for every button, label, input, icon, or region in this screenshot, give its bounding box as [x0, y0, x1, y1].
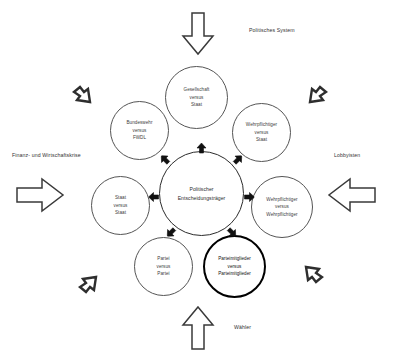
circle-label: Gesellschaft versus Staat [184, 86, 210, 108]
circle-label: Parteimitglieder versus Parteimitglieder [218, 255, 251, 277]
arrow-left-icon-right [326, 176, 376, 214]
arrow-down-left-icon [306, 85, 328, 107]
arrow-up-right-icon [78, 272, 100, 294]
circle-label: Bundeswehr versus FWDL [126, 119, 152, 141]
inner-arrow-up-icon [196, 140, 207, 158]
circle-label: Wehrpflichtiger versus Staat [246, 121, 277, 143]
arrow-up-left-icon [302, 262, 324, 284]
circle-label: Wehrpflichtiger versus Wehrpflichtiger [266, 196, 297, 218]
arrow-down-right-icon [72, 85, 94, 107]
circle-partei-vs-partei[interactable]: Partei versus Partei [134, 237, 193, 296]
outer-label-politisches-system: Politisches System [249, 27, 295, 33]
arrow-up-icon-bottom [180, 305, 216, 351]
inner-arrow-left-icon [146, 192, 164, 203]
circle-parteimitglieder-vs-parteimitglieder[interactable]: Parteimitglieder versus Parteimitglieder [203, 235, 266, 298]
outer-label-waehler: Wähler [234, 324, 251, 330]
circle-gesellschaft-vs-staat[interactable]: Gesellschaft versus Staat [165, 66, 228, 129]
arrow-down-icon-top [180, 12, 216, 56]
circle-label: Politischer Entscheidungsträger [178, 185, 226, 202]
circle-wehrpflichtiger-vs-wehrpflichtiger[interactable]: Wehrpflichtiger versus Wehrpflichtiger [251, 176, 313, 238]
outer-label-finanz-wirtschaftskrise: Finanz- und Wirtschaftskrise [12, 152, 81, 158]
circle-staat-vs-staat[interactable]: Staat versus Staat [91, 176, 150, 235]
arrow-right-icon-left [16, 176, 66, 214]
diagram-canvas: Politisches System Finanz- und Wirtschaf… [0, 0, 393, 359]
inner-arrow-right-icon [240, 192, 258, 203]
circle-label: Partei versus Partei [157, 255, 171, 277]
circle-label: Staat versus Staat [114, 194, 128, 216]
outer-label-lobbyisten: Lobbyisten [334, 152, 360, 158]
